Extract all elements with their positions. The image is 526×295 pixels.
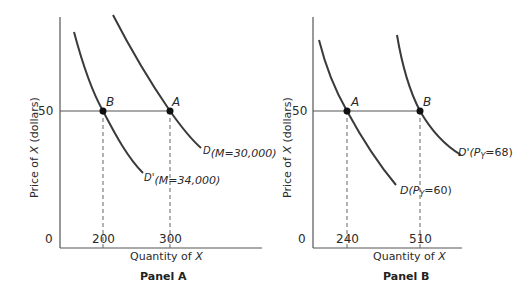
- panel-b-curve-d-prime-label: D'(PY=68): [458, 146, 513, 161]
- panel-b-y-tick-50: 50: [292, 104, 307, 118]
- panel-b-point-b-label: B: [423, 95, 431, 109]
- panel-a-origin-label: 0: [45, 232, 53, 246]
- panel-a-x-tick-300: 300: [159, 232, 182, 246]
- panel-b-point-a: [344, 108, 351, 115]
- panel-b-point-a-label: A: [351, 95, 359, 109]
- panel-a-curve-d-label: D(M=30,000): [203, 145, 276, 160]
- panel-b-axes: [313, 17, 462, 248]
- panel-b-x-tick-240: 240: [336, 232, 359, 246]
- panel-a-x-axis-label: Quantity of X: [130, 250, 203, 263]
- panel-b-curve-d: [319, 40, 396, 185]
- panel-a-point-b-label: B: [106, 95, 114, 109]
- panel-a-curve-d-prime-label: D'(M=34,000): [144, 172, 220, 187]
- panel-b-title: Panel B: [383, 270, 429, 283]
- panel-a-y-tick-50: 50: [38, 104, 53, 118]
- panel-b-x-axis-label: Quantity of X: [373, 250, 446, 263]
- panel-a-point-a-label: A: [172, 95, 180, 109]
- panel-b-origin-label: 0: [298, 232, 306, 246]
- panel-a-curve-d: [113, 15, 201, 148]
- panel-a-axes: [60, 17, 262, 248]
- panel-b-curve-d-label: D(PY=60): [400, 184, 452, 199]
- panel-a-title: Panel A: [140, 270, 187, 283]
- panel-a-x-tick-200: 200: [92, 232, 115, 246]
- panel-b-x-tick-510: 510: [409, 232, 432, 246]
